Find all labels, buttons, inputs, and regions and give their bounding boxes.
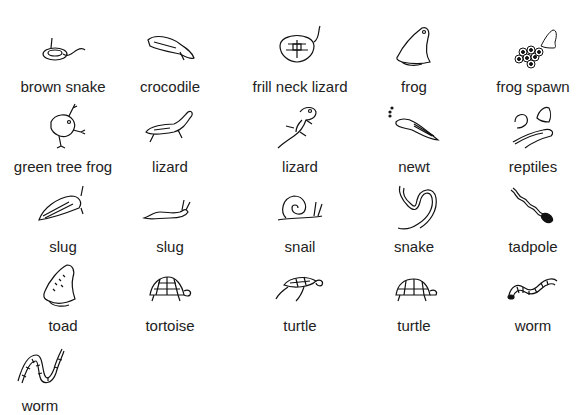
snake-icon <box>384 182 444 232</box>
gallery-item-frog-spawn[interactable]: frog spawn <box>473 22 577 102</box>
gallery-item-turtle[interactable]: turtle <box>240 261 360 341</box>
turtle-icon <box>270 261 330 311</box>
item-label: slug <box>110 238 230 256</box>
lizard-icon <box>140 102 200 152</box>
item-label: snake <box>354 238 474 256</box>
gallery-item-lizard[interactable]: lizard <box>110 102 230 182</box>
item-label: slug <box>3 238 123 256</box>
crocodile-icon <box>140 22 200 72</box>
item-label: lizard <box>110 158 230 176</box>
gallery-item-worm[interactable]: worm <box>473 261 577 341</box>
snail-icon <box>270 182 330 232</box>
gallery-item-toad[interactable]: toad <box>3 261 123 341</box>
toad-icon <box>33 261 93 311</box>
slug-icon <box>140 182 200 232</box>
brown-snake-icon <box>33 22 93 72</box>
gallery-item-frog[interactable]: frog <box>354 22 474 102</box>
gallery-item-lizard-2[interactable]: lizard <box>240 102 360 182</box>
gallery-item-reptiles[interactable]: reptiles <box>473 102 577 182</box>
tadpole-icon <box>503 182 563 232</box>
worm-icon <box>10 341 70 391</box>
gallery-item-tortoise[interactable]: tortoise <box>110 261 230 341</box>
item-label: turtle <box>240 317 360 335</box>
item-label: crocodile <box>110 78 230 96</box>
worm-icon <box>503 261 563 311</box>
item-label: reptiles <box>473 158 577 176</box>
gallery-item-brown-snake[interactable]: brown snake <box>3 22 123 102</box>
frill-neck-lizard-icon <box>270 22 330 72</box>
item-label: toad <box>3 317 123 335</box>
slug-icon <box>33 182 93 232</box>
green-tree-frog-icon <box>33 102 93 152</box>
frog-icon <box>384 22 444 72</box>
gallery-item-tadpole[interactable]: tadpole <box>473 182 577 262</box>
item-label: turtle <box>354 317 474 335</box>
gallery-item-slug[interactable]: slug <box>3 182 123 262</box>
gallery-item-newt[interactable]: newt <box>354 102 474 182</box>
gallery-item-snake[interactable]: snake <box>354 182 474 262</box>
item-label: frog <box>354 78 474 96</box>
gallery-item-crocodile[interactable]: crocodile <box>110 22 230 102</box>
item-label: worm <box>0 397 100 415</box>
gallery-item-frill-neck-lizard[interactable]: frill neck lizard <box>240 22 360 102</box>
item-label: frill neck lizard <box>240 78 360 96</box>
item-label: brown snake <box>3 78 123 96</box>
item-label: green tree frog <box>3 158 123 176</box>
item-label: frog spawn <box>473 78 577 96</box>
item-label: snail <box>240 238 360 256</box>
frog-spawn-icon <box>503 22 563 72</box>
gallery-item-slug-2[interactable]: slug <box>110 182 230 262</box>
gallery-item-turtle-2[interactable]: turtle <box>354 261 474 341</box>
item-label: lizard <box>240 158 360 176</box>
gallery-item-green-tree-frog[interactable]: green tree frog <box>3 102 123 182</box>
item-label: newt <box>354 158 474 176</box>
tortoise-icon <box>140 261 200 311</box>
item-label: worm <box>473 317 577 335</box>
lizard-icon <box>270 102 330 152</box>
gallery-item-snail[interactable]: snail <box>240 182 360 262</box>
reptiles-icon <box>503 102 563 152</box>
gallery-item-worm-2[interactable]: worm <box>0 341 100 415</box>
item-label: tortoise <box>110 317 230 335</box>
turtle-icon <box>384 261 444 311</box>
item-label: tadpole <box>473 238 577 256</box>
newt-icon <box>384 102 444 152</box>
